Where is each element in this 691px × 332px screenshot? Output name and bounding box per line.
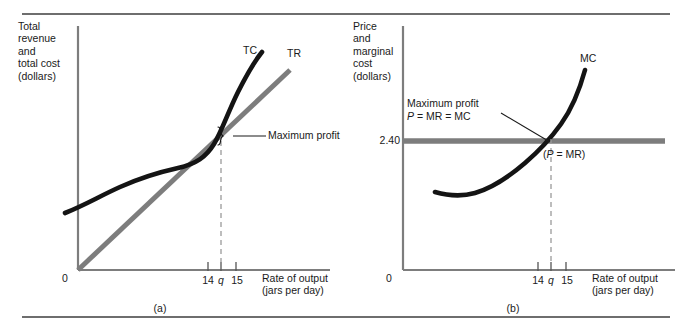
demand-label-p-symbol: P: [547, 148, 554, 160]
panel-a-origin-label: 0: [62, 272, 68, 284]
panel-b-tick-label-15: 15: [557, 274, 577, 286]
total-revenue-curve: [78, 70, 290, 270]
panel-a-tick-label-15: 15: [227, 274, 247, 286]
marginal-cost-curve: [435, 70, 585, 196]
panel-b-caption: (b): [493, 302, 533, 314]
panel-a: Total revenue and total cost (dollars) T…: [0, 0, 345, 332]
panel-b-origin-label: 0: [386, 272, 392, 284]
total-revenue-label: TR: [287, 47, 301, 59]
panel-b-annotation-line1: Maximum profit: [407, 97, 479, 110]
marginal-cost-label: MC: [580, 52, 596, 64]
panel-b-price-tick-label: 2.40: [368, 134, 400, 146]
panel-a-maximum-profit-annotation: Maximum profit: [268, 129, 340, 142]
panel-b-maximum-profit-leader-line: [501, 113, 550, 142]
panel-b-annotation-equality: = MR = MC: [414, 110, 471, 122]
price-marginal-revenue-label: (P = MR): [543, 148, 585, 161]
demand-label-rest: = MR): [554, 148, 586, 160]
panel-b: Price and marginal cost (dollars) MC Max…: [345, 0, 691, 332]
panel-b-x-axis-label: Rate of output (jars per day): [592, 272, 682, 297]
figure-container: Total revenue and total cost (dollars) T…: [0, 0, 691, 332]
panel-a-caption: (a): [140, 302, 180, 314]
panel-a-x-axis-label: Rate of output (jars per day): [262, 272, 352, 297]
panel-b-maximum-profit-annotation: Maximum profit P = MR = MC: [407, 97, 479, 123]
panel-b-annotation-line2: P = MR = MC: [407, 110, 479, 123]
panel-b-annotation-p-symbol: P: [407, 110, 414, 122]
total-cost-label: TC: [243, 44, 257, 56]
